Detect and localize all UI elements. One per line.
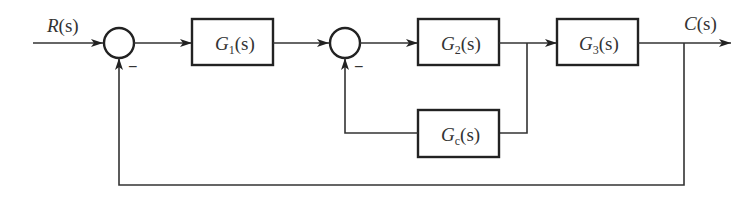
summing-junction-1 bbox=[104, 28, 134, 58]
block-gc: Gc(s) bbox=[418, 110, 499, 157]
feedback-sign-2: − bbox=[354, 58, 363, 75]
svg-text:G1(s): G1(s) bbox=[215, 33, 255, 57]
inner-feedback-pickoff-line bbox=[499, 43, 527, 133]
output-label: C(s) bbox=[684, 13, 717, 35]
feedback-sign-1: − bbox=[128, 58, 137, 75]
block-g1: G1(s) bbox=[192, 19, 273, 65]
block-g2: G2(s) bbox=[418, 19, 499, 65]
svg-text:G2(s): G2(s) bbox=[441, 33, 481, 57]
svg-text:Gc(s): Gc(s) bbox=[441, 124, 480, 148]
block-g3: G3(s) bbox=[557, 19, 638, 65]
summing-junction-2 bbox=[330, 28, 360, 58]
block-diagram: R(s) − G1(s) − G2(s) G3(s) C(s) Gc(s) bbox=[0, 0, 756, 203]
input-label: R(s) bbox=[46, 15, 79, 37]
svg-text:G3(s): G3(s) bbox=[579, 33, 619, 57]
